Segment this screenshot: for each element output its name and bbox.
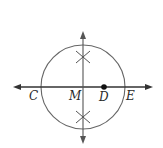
left-arrow-icon bbox=[13, 84, 21, 90]
diagram-svg: C M D E bbox=[0, 0, 163, 148]
up-arrow-icon bbox=[80, 31, 86, 39]
label-e: E bbox=[125, 89, 135, 103]
right-arrow-icon bbox=[145, 84, 153, 90]
label-c: C bbox=[29, 89, 38, 103]
label-m: M bbox=[68, 89, 82, 103]
label-d: D bbox=[98, 90, 109, 104]
point-d-dot bbox=[101, 84, 107, 90]
geometry-diagram: C M D E bbox=[0, 0, 163, 148]
down-arrow-icon bbox=[80, 136, 86, 144]
